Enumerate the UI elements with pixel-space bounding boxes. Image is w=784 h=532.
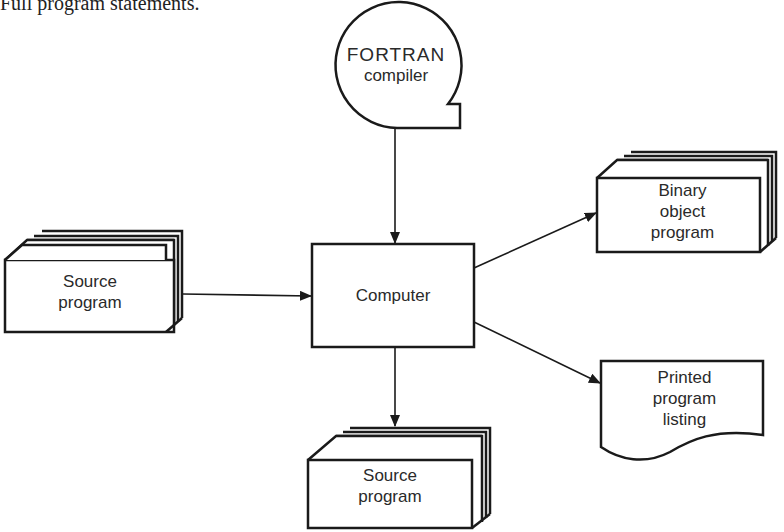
source-input-line1: Source (10, 271, 170, 292)
binary-line3: program (610, 222, 755, 243)
arrow-computer-to-listing (474, 322, 600, 383)
compiler-line1: FORTRAN (340, 44, 452, 65)
compiler-line2: compiler (340, 65, 452, 86)
source-output-label: Source program (315, 465, 465, 507)
binary-line1: Binary (610, 180, 755, 201)
listing-line3: listing (612, 409, 757, 430)
source-input-label: Source program (10, 271, 170, 313)
source-input-line2: program (10, 292, 170, 313)
source-output-line2: program (315, 486, 465, 507)
listing-label: Printed program listing (612, 367, 757, 430)
listing-line2: program (612, 388, 757, 409)
arrow-computer-to-binary (474, 213, 596, 268)
binary-label: Binary object program (610, 180, 755, 243)
arrow-source-to-computer (183, 294, 311, 296)
binary-line2: object (610, 201, 755, 222)
computer-label: Computer (312, 285, 474, 306)
compiler-label: FORTRAN compiler (340, 44, 452, 86)
source-output-line1: Source (315, 465, 465, 486)
listing-line1: Printed (612, 367, 757, 388)
